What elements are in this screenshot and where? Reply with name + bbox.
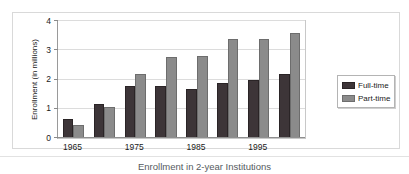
bar-part-time	[290, 33, 301, 138]
bar-full-time	[63, 119, 74, 138]
bar-part-time	[228, 39, 239, 138]
bar-full-time	[186, 89, 197, 138]
legend-item-full-time: Full-time	[342, 80, 391, 90]
bar-group	[243, 21, 274, 138]
caption-divider	[0, 156, 409, 157]
x-axis-tick-labels: 1965197519851995	[57, 142, 306, 154]
bar-full-time	[155, 86, 166, 138]
y-axis-tick-label: 0	[46, 134, 51, 143]
y-axis-tick-label: 4	[46, 17, 51, 26]
chart-figure: Enrollment (in millions) 01234 196519751…	[0, 0, 409, 174]
x-axis-tick-label: 1975	[125, 142, 144, 153]
chart-frame: Enrollment (in millions) 01234 196519751…	[12, 12, 400, 149]
bar-full-time	[217, 83, 228, 138]
bar-part-time	[104, 107, 115, 138]
bar-group	[58, 21, 89, 138]
legend-label-part-time: Part-time	[358, 94, 390, 103]
figure-caption: Enrollment in 2-year Institutions	[0, 161, 409, 173]
bar-group	[89, 21, 120, 138]
bar-part-time	[135, 74, 146, 138]
bar-full-time	[248, 80, 259, 138]
bar-group	[120, 21, 151, 138]
legend-item-part-time: Part-time	[342, 93, 391, 103]
x-axis-tick-label: 1995	[248, 142, 267, 153]
bar-part-time	[197, 56, 208, 138]
legend-label-full-time: Full-time	[358, 81, 389, 90]
x-axis-tick-label: 1965	[63, 142, 82, 153]
bar-group	[274, 21, 305, 138]
x-axis-tick-label: 1985	[186, 142, 205, 153]
x-axis-line	[58, 137, 305, 138]
y-axis-tick-label: 3	[46, 46, 51, 55]
legend-swatch-full-time	[342, 82, 355, 89]
bar-part-time	[259, 39, 270, 138]
plot-area: 01234	[57, 20, 306, 139]
bar-group	[151, 21, 182, 138]
bar-group	[182, 21, 213, 138]
bar-full-time	[125, 86, 136, 138]
bar-full-time	[279, 74, 290, 138]
y-axis-tick-label: 1	[46, 105, 51, 114]
chart-legend: Full-time Part-time	[337, 75, 395, 108]
y-axis-title: Enrollment (in millions)	[29, 20, 41, 139]
legend-swatch-part-time	[342, 95, 355, 102]
bar-full-time	[94, 104, 105, 139]
y-axis-tick-label: 2	[46, 75, 51, 84]
bar-group	[212, 21, 243, 138]
bars-layer	[58, 21, 305, 138]
bar-part-time	[166, 57, 177, 138]
